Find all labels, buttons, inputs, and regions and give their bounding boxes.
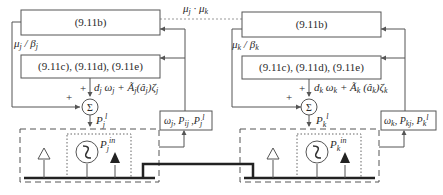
box-9-11b-j-label: (9.11b) (75, 16, 107, 29)
feedback-label-j: μj / βj (13, 37, 39, 51)
feedback-label-k: μk / βk (231, 38, 259, 52)
box-9-11cde-k-label: (9.11c), (9.11d), (9.11e) (259, 61, 364, 74)
generator-label-k: Pkin (329, 136, 347, 153)
plus-top-j: + (80, 82, 86, 94)
plus-top-k: + (299, 82, 305, 94)
sum-output-label-k: Pkl (315, 112, 329, 129)
control-diagram: μj · μk (9.11b) μj / βj (9.11c), (9.11d)… (0, 0, 443, 195)
signal-label-j: dj ωj + Ãj(âj)ζj (94, 81, 159, 95)
generator-label-j: Pjin (99, 136, 115, 153)
box-9-11cde-j-label: (9.11c), (9.11d), (9.11e) (38, 60, 143, 73)
sum-symbol-k: Σ (306, 102, 312, 113)
agent-j: (9.11b) μj / βj (9.11c), (9.11d), (9.11e… (12, 10, 212, 182)
plus-left-k: + (286, 91, 292, 103)
source-icon-k (340, 152, 350, 163)
communication-label: μj · μk (182, 2, 209, 16)
box-9-11b-k-label: (9.11b) (296, 18, 328, 31)
agent-k: (9.11b) μk / βk (9.11c), (9.11d), (9.11e… (231, 12, 436, 182)
load-icon-k (267, 148, 279, 159)
signal-label-k: dk ωk + Ãk (âk)ζk (314, 81, 388, 95)
sum-output-label-j: Pjl (95, 112, 108, 129)
sum-symbol-j: Σ (87, 102, 93, 113)
load-icon-j (38, 148, 50, 159)
plus-left-j: + (66, 91, 72, 103)
source-icon-j (110, 152, 120, 163)
